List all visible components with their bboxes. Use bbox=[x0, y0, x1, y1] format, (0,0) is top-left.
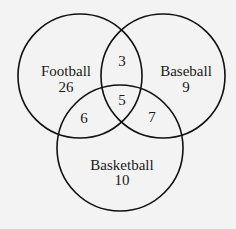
football-baseball-count: 3 bbox=[118, 53, 126, 69]
football-basketball-count: 6 bbox=[80, 110, 88, 126]
venn-diagram: Football 26 Baseball 9 Basketball 10 3 5… bbox=[0, 0, 236, 229]
baseball-basketball-count: 7 bbox=[148, 109, 156, 125]
baseball-only-count: 9 bbox=[182, 79, 190, 95]
basketball-label: Basketball bbox=[90, 157, 153, 173]
football-only-count: 26 bbox=[59, 79, 75, 95]
football-label: Football bbox=[41, 63, 91, 79]
all-three-count: 5 bbox=[118, 92, 126, 108]
baseball-label: Baseball bbox=[160, 63, 212, 79]
basketball-only-count: 10 bbox=[115, 172, 130, 188]
